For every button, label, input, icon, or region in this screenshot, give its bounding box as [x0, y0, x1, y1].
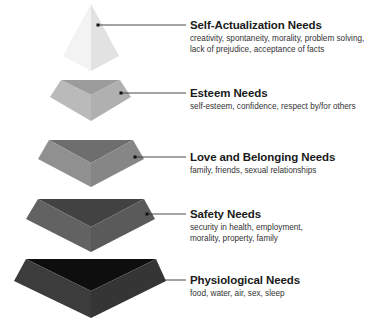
pyramid-level-esteem	[50, 80, 186, 121]
level-description: security in health, employment, morality…	[190, 222, 320, 244]
label-self-actualization: Self-Actualization Needs creativity, spo…	[190, 18, 374, 55]
level-description: food, water, air, sex, sleep	[190, 288, 374, 299]
label-safety: Safety Needs security in health, employm…	[190, 207, 320, 244]
pyramid-face-right	[91, 4, 119, 71]
leader-dot	[134, 156, 137, 159]
pyramid-level-safety	[26, 199, 186, 252]
pyramid-level-physiological	[14, 259, 186, 318]
level-description: family, friends, sexual relationships	[190, 165, 374, 176]
leader-dot	[97, 24, 100, 27]
leader-dot	[146, 213, 149, 216]
pyramid-face-left	[63, 4, 91, 71]
level-description: creativity, spontaneity, morality, probl…	[190, 33, 374, 55]
label-esteem: Esteem Needs self-esteem, confidence, re…	[190, 86, 374, 112]
label-physiological: Physiological Needs food, water, air, se…	[190, 273, 374, 299]
level-title: Safety Needs	[190, 207, 320, 221]
level-title: Physiological Needs	[190, 273, 374, 287]
level-description: self-esteem, confidence, respect by/for …	[190, 101, 374, 112]
level-title: Love and Belonging Needs	[190, 150, 374, 164]
level-title: Self-Actualization Needs	[190, 18, 374, 32]
leader-dot	[120, 92, 123, 95]
label-love-belonging: Love and Belonging Needs family, friends…	[190, 150, 374, 176]
pyramid-level-self-actualization	[63, 4, 186, 71]
pyramid-level-love-belonging	[38, 140, 186, 187]
level-title: Esteem Needs	[190, 86, 374, 100]
